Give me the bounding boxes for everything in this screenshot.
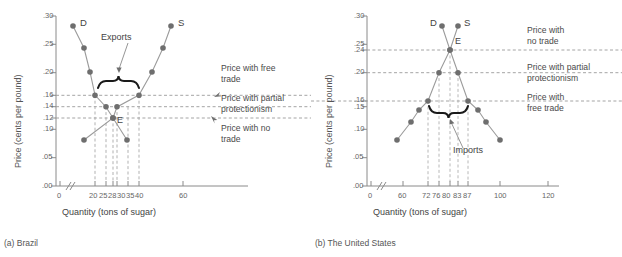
us-ytick-05: .05 (353, 152, 363, 161)
brazil-annotation-partial-l2: protectionism (221, 104, 272, 114)
brazil-ytick-00: .00 (42, 181, 52, 190)
brazil-xtick-20: 20 (89, 191, 97, 200)
brazil-xtick-25: 25 (99, 191, 107, 200)
us-xtick-100: 100 (494, 191, 507, 200)
us-xtick-80: 80 (442, 191, 450, 200)
us-annotation-partial: Price with partial protectionism (527, 62, 590, 83)
brazil-xtick-40: 40 (135, 191, 143, 200)
us-equilibrium-label: E (455, 36, 461, 46)
brazil-ytick-20: .20 (43, 67, 53, 76)
us-demand-curve (397, 26, 450, 140)
brazil-exports-arrowhead (116, 67, 121, 73)
brazil-ytick-25: .25 (43, 39, 53, 48)
brazil-ytick-14: .14 (43, 101, 53, 110)
us-x-ticks (371, 181, 548, 186)
us-demand-points (394, 23, 453, 143)
us-annotation-partial-l2: protectionism (527, 73, 578, 83)
brazil-exports-arrow (119, 43, 128, 69)
brazil-annotation-partial-l1: Price with partial (221, 93, 284, 103)
brazil-xtick-30: 30 (117, 191, 125, 200)
brazil-x-ticks (60, 181, 183, 186)
brazil-ytick-05: .05 (42, 152, 52, 161)
us-x-axis-label: Quantity (tons of sugar) (373, 207, 467, 217)
us-ytick-15: .15 (354, 102, 364, 111)
us-caption: (b) The United States (315, 238, 396, 248)
us-annotation-no-trade-l1: Price with (527, 25, 564, 35)
us-xtick-76: 76 (432, 191, 440, 200)
brazil-annotation-no-trade-l2: trade (221, 134, 241, 144)
brazil-exports-brace (98, 76, 139, 88)
brazil-annotation-no-trade: Price with no trade (221, 123, 270, 144)
us-ytick-24: .24 (354, 45, 364, 54)
brazil-y-axis-label: Price (cents per pound) (13, 74, 23, 168)
us-imports-arrowhead (449, 119, 454, 124)
us-xtick-87: 87 (463, 191, 471, 200)
us-ytick-10: .10 (354, 124, 364, 133)
brazil-xtick-0: 0 (57, 191, 61, 200)
us-xtick-60: 60 (398, 191, 406, 200)
us-ytick-00: .00 (353, 181, 363, 190)
brazil-caption: (a) Brazil (4, 238, 38, 248)
us-annotation-free-trade: Price with free trade (527, 92, 564, 113)
us-ytick-20: .20 (354, 67, 364, 76)
us-annotation-free-trade-l2: free trade (527, 103, 564, 113)
brazil-x-axis-label: Quantity (tons of sugar) (62, 207, 156, 217)
us-xtick-120: 120 (542, 191, 555, 200)
us-xtick-83: 83 (453, 191, 461, 200)
brazil-annotation-free-trade-l2: trade (221, 74, 241, 84)
brazil-xtick-35: 35 (126, 191, 134, 200)
brazil-demand-label: D (80, 17, 87, 28)
brazil-ytick-10: .10 (43, 124, 53, 133)
brazil-annotation-free-trade: Price with free trade (221, 63, 275, 84)
brazil-equilibrium-label: E (117, 115, 123, 125)
us-annotation-no-trade-l2: no trade (527, 36, 559, 46)
us-ytick-30: .30 (354, 11, 364, 20)
brazil-ytick-16: .16 (43, 90, 53, 99)
brazil-ytick-30: .30 (43, 11, 53, 20)
us-imports-brace (429, 106, 468, 118)
brazil-ytick-12: .12 (43, 113, 53, 122)
panel-united-states: Price (cents per pound) .30 .25 .24 .20 … (311, 0, 622, 257)
us-demand-label: D (430, 17, 437, 28)
brazil-xtick-28: 28 (108, 191, 116, 200)
brazil-annotation-no-trade-l1: Price with no (221, 123, 270, 133)
us-annotation-partial-l1: Price with partial (527, 62, 590, 72)
panel-brazil: Price (cents per pound) .30 .25 .20 .16 … (0, 0, 311, 257)
us-xtick-0: 0 (368, 191, 372, 200)
us-y-axis-label: Price (cents per pound) (324, 74, 334, 168)
brazil-xtick-60: 60 (179, 191, 187, 200)
us-annotation-free-trade-l1: Price with (527, 92, 564, 102)
brazil-annotation-partial: Price with partial protectionism (221, 93, 284, 114)
us-imports-label: Imports (453, 145, 483, 155)
brazil-exports-label: Exports (101, 32, 132, 42)
us-xtick-72: 72 (422, 191, 430, 200)
us-supply-label: S (464, 17, 470, 28)
brazil-supply-label: S (178, 17, 184, 28)
brazil-no-trade-pointer (211, 116, 217, 123)
us-annotation-no-trade: Price with no trade (527, 25, 564, 46)
brazil-annotation-free-trade-l1: Price with free (221, 63, 275, 73)
